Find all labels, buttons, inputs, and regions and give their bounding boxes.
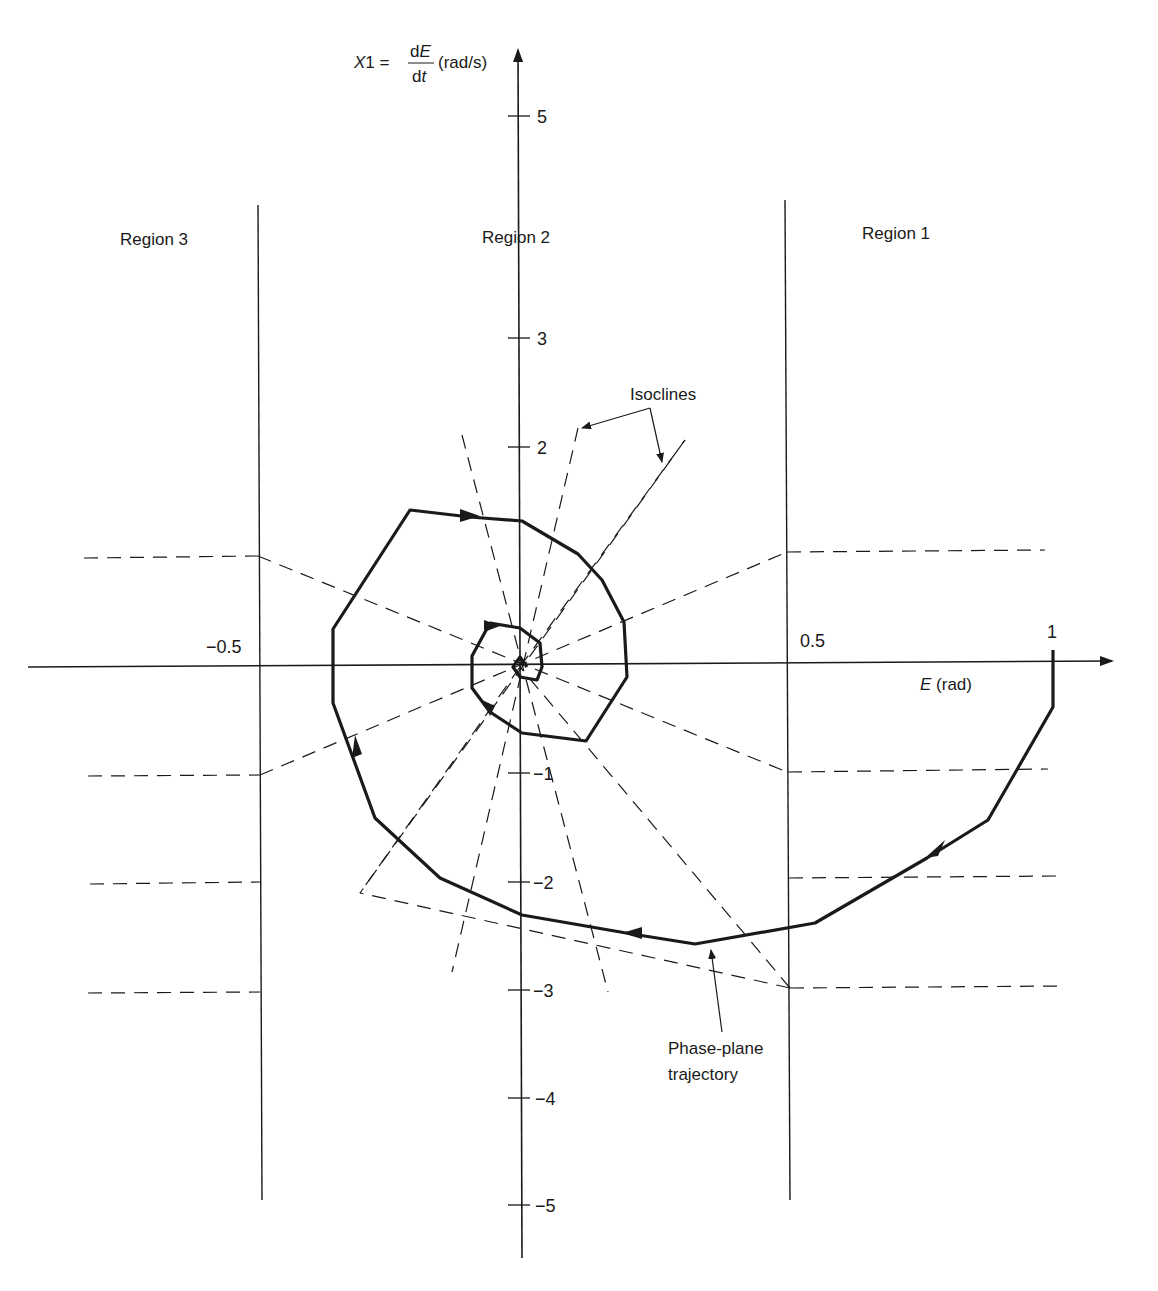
svg-text:−4: −4	[535, 1089, 556, 1109]
boundary-e-neg05	[258, 205, 262, 1200]
x-tick-label: −0.5	[206, 637, 242, 657]
arrow-icon	[622, 927, 642, 939]
boundary-e-05	[785, 200, 790, 1200]
svg-text:dE: dE	[410, 42, 431, 61]
x-axis	[28, 661, 1112, 667]
phase-plane-trajectory	[333, 510, 1053, 944]
svg-text:−1: −1	[533, 764, 554, 784]
isocline-pointer	[650, 408, 662, 462]
arrow-icon	[352, 735, 362, 758]
svg-text:5: 5	[537, 107, 547, 127]
y-axis-label: X1 = dE dt (rad/s)	[353, 42, 487, 86]
svg-text:3: 3	[537, 329, 547, 349]
svg-text:−2: −2	[533, 873, 554, 893]
svg-text:2: 2	[537, 438, 547, 458]
trajectory-pointer	[711, 950, 722, 1032]
x-tick-label: 1	[1047, 622, 1057, 642]
phase-plane-figure: Region 3 Region 2 Region 1 Isoclines Pha…	[0, 0, 1158, 1291]
y-tick-labels: 5 3 2 −1 −2 −3 −4 −5	[533, 107, 556, 1216]
axes	[28, 50, 1112, 1258]
isoclines-label: Isoclines	[630, 385, 696, 404]
svg-text:(rad/s): (rad/s)	[438, 53, 487, 72]
trajectory-arrowheads	[352, 509, 945, 939]
region-3-label: Region 3	[120, 230, 188, 249]
x-axis-label: E (rad)	[920, 675, 972, 694]
svg-text:dt: dt	[412, 67, 427, 86]
x-tick-label: 0.5	[800, 631, 825, 651]
region-2-label: Region 2	[482, 228, 550, 247]
svg-text:−3: −3	[533, 981, 554, 1001]
isocline-pointer	[582, 408, 650, 428]
svg-text:X1 =: X1 =	[353, 53, 390, 72]
isoclines	[84, 428, 1063, 993]
trajectory-label-line2: trajectory	[668, 1065, 738, 1084]
svg-text:−5: −5	[535, 1196, 556, 1216]
trajectory-label-line1: Phase-plane	[668, 1039, 763, 1058]
region-1-label: Region 1	[862, 224, 930, 243]
arrow-icon	[460, 509, 480, 522]
